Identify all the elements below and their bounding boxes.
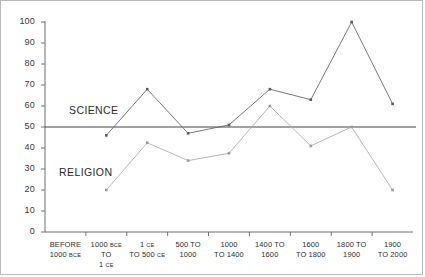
x-tick-label-line: 500 TO [168, 240, 209, 250]
data-point-marker [105, 134, 108, 137]
series-line-science [106, 22, 392, 135]
data-point-marker [309, 98, 312, 101]
x-tick-label-line: 1900 [331, 250, 372, 260]
y-tick-label: 90 [9, 38, 35, 47]
data-point-marker [187, 159, 190, 162]
x-tick-label-line: 1800 TO [331, 240, 372, 250]
y-tick-label: 70 [9, 80, 35, 89]
data-point-marker [350, 126, 353, 129]
y-tick-label: 0 [9, 227, 35, 236]
chart-frame: 0102030405060708090100 BEFORE1000 BCE100… [0, 0, 423, 275]
x-tick-label-line: 1600 [249, 250, 290, 260]
data-point-marker [105, 189, 108, 192]
y-tick-marks [41, 22, 45, 232]
data-point-marker [146, 88, 149, 91]
x-tick-label-line: 1000 [209, 240, 250, 250]
x-tick-label-line: 1 CE [86, 260, 127, 270]
y-tick-label: 40 [9, 143, 35, 152]
x-tick-label-line: TO 1400 [209, 250, 250, 260]
x-tick-label: 500 TO1000 [168, 240, 209, 260]
data-point-marker [269, 88, 272, 91]
data-point-marker [350, 21, 353, 24]
series-label-science: SCIENCE [69, 104, 118, 116]
series-layer [105, 21, 394, 192]
x-tick-label: 1 CETO 500 CE [127, 240, 168, 260]
x-tick-label: BEFORE1000 BCE [45, 240, 86, 260]
x-tick-label: 1000 BCE TO1 CE [86, 240, 127, 270]
data-point-marker [146, 141, 149, 144]
axes [41, 21, 413, 236]
x-tick-label-line: 1900 [372, 240, 413, 250]
y-tick-label: 20 [9, 185, 35, 194]
data-point-marker [228, 124, 231, 127]
x-tick-label-line: TO 2000 [372, 250, 413, 260]
data-point-marker [187, 132, 190, 135]
x-tick-label: 1400 TO1600 [249, 240, 290, 260]
y-tick-label: 60 [9, 101, 35, 110]
x-tick-label-line: 1000 BCE [45, 250, 86, 260]
x-tick-label-line: TO 500 CE [127, 250, 168, 260]
y-tick-label: 50 [9, 122, 35, 131]
data-point-marker [391, 103, 394, 106]
x-tick-label: 1000TO 1400 [209, 240, 250, 260]
y-tick-label: 10 [9, 206, 35, 215]
data-point-marker [309, 145, 312, 148]
series-line-religion [106, 106, 392, 190]
y-tick-label: 80 [9, 59, 35, 68]
x-tick-label-line: TO 1800 [290, 250, 331, 260]
line-chart-svg [1, 1, 424, 276]
data-point-marker [391, 189, 394, 192]
data-point-marker [269, 105, 272, 108]
x-tick-label-line: 1400 TO [249, 240, 290, 250]
y-tick-label: 100 [9, 17, 35, 26]
x-tick-label-line: 1000 [168, 250, 209, 260]
data-point-marker [228, 152, 231, 155]
x-tick-marks [86, 232, 372, 236]
y-tick-label: 30 [9, 164, 35, 173]
x-tick-label-line: 1 CE [127, 240, 168, 250]
x-tick-label: 1600TO 1800 [290, 240, 331, 260]
x-tick-label-line: 1600 [290, 240, 331, 250]
series-label-religion: RELIGION [59, 166, 112, 178]
x-tick-label-line: BEFORE [45, 240, 86, 250]
x-tick-label: 1900TO 2000 [372, 240, 413, 260]
x-tick-label: 1800 TO1900 [331, 240, 372, 260]
x-tick-label-line: 1000 BCE TO [86, 240, 127, 260]
